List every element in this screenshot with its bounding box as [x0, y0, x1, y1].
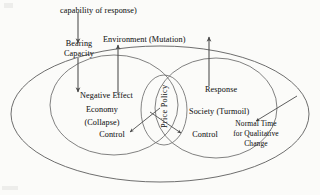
normal-time-label-line3: Change [228, 139, 284, 150]
economy-label: Economy [76, 105, 128, 116]
scan-artifact-bottom-left [2, 186, 18, 190]
collapse-label: (Collapse) [74, 118, 130, 129]
capability-of-response-label: capability of response) [60, 6, 137, 17]
control-right-label: Control [183, 130, 227, 141]
bearing-capacity-label-line1: Bearing [57, 39, 101, 50]
negative-effect-label: Negative Effect [80, 91, 133, 102]
control-left-label: Control [90, 130, 134, 141]
response-label: Response [205, 85, 237, 96]
normal-time-label-line2: for Qualitative [223, 129, 289, 140]
society-turmoil-label: Society (Turmoil) [189, 107, 249, 118]
environment-mutation-label: Environment (Mutation) [103, 35, 185, 46]
price-policy-to-economy-control-arrow [130, 108, 160, 132]
scan-artifact-top-left [4, 3, 13, 8]
price-policy-label: Price Policy [160, 85, 169, 128]
bearing-capacity-label-line2: Capacity [55, 49, 103, 60]
diagram-canvas: capability of response) Environment (Mut… [0, 0, 320, 195]
normal-time-label-line1: Normal Time [225, 119, 287, 130]
